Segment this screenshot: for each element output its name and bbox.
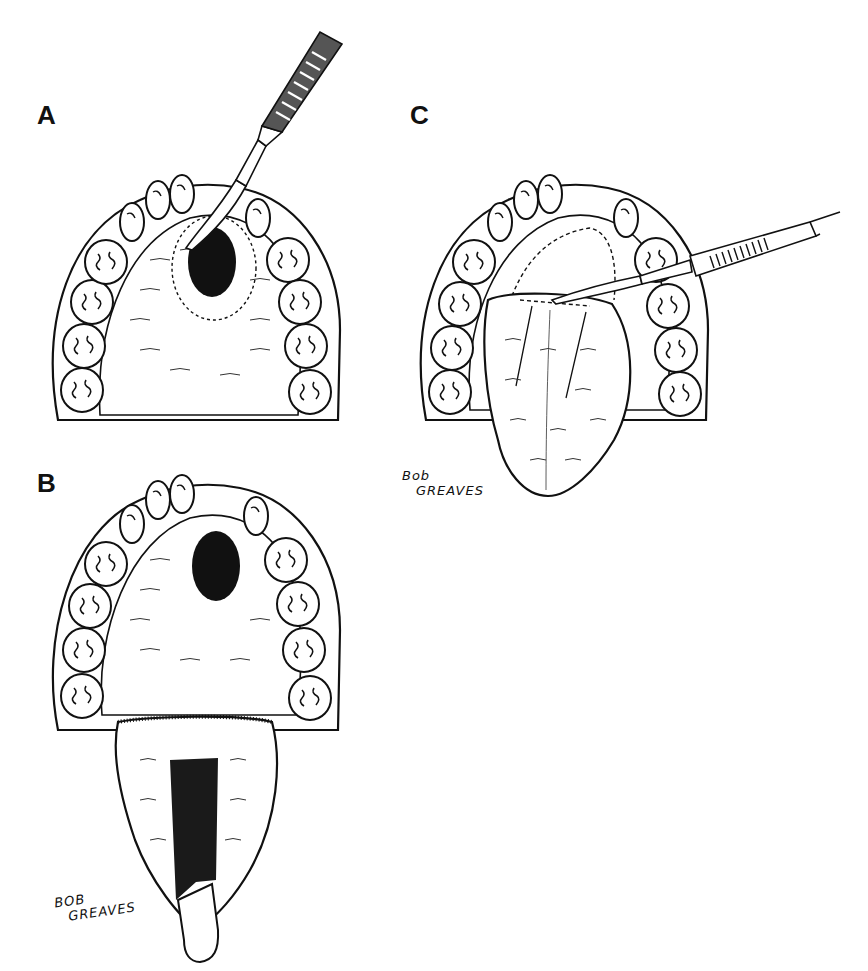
panel-a-illustration	[0, 0, 420, 440]
panel-c-illustration	[400, 0, 868, 520]
palatal-fistula	[192, 531, 240, 601]
upper-jaw-a	[53, 175, 340, 420]
signature-line-2: GREAVES	[402, 483, 484, 498]
signature-line-1: Bob	[402, 468, 484, 483]
artist-signature-c: Bob GREAVES	[402, 468, 484, 498]
upper-jaw-b	[53, 475, 340, 730]
tongue-c	[484, 294, 630, 496]
tongue-donor-site	[170, 758, 218, 900]
tongue-with-flap	[116, 717, 277, 962]
